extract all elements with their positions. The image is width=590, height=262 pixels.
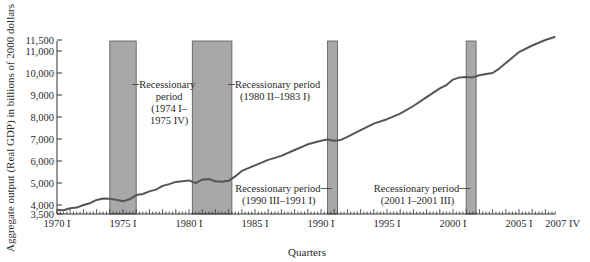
recession-annotation-3: Recessionary period(1990 III–1991 I) <box>235 183 331 207</box>
recession-bar-3 <box>328 41 338 214</box>
gdp-recession-chart: 3,5004,0005,0006,0007,0008,0009,00010,00… <box>0 0 590 262</box>
y-tick-label: 7,000 <box>30 134 54 145</box>
annotation-text: Recessionary <box>139 79 196 90</box>
y-tick-label: 11,000 <box>26 46 55 57</box>
x-tick-label: 1985 I <box>241 218 269 229</box>
x-tick-label: 2005 I <box>505 218 533 229</box>
x-tick-label: 1995 I <box>373 218 401 229</box>
y-tick-label: 9,000 <box>30 90 54 101</box>
y-tick-label: 5,000 <box>30 178 54 189</box>
recession-bar-2 <box>192 41 232 214</box>
annotation-text: (1974 I– <box>151 103 188 115</box>
y-tick-label: 6,000 <box>30 156 54 167</box>
annotation-text: (1980 II–1983 I) <box>240 91 310 103</box>
y-tick-label: 4,000 <box>30 200 54 211</box>
recession-annotation-2: Recessionary period(1980 II–1983 I) <box>228 79 321 103</box>
y-tick-label: 11,500 <box>26 35 55 46</box>
annotation-text: 1975 IV) <box>150 115 189 127</box>
chart-canvas: 3,5004,0005,0006,0007,0008,0009,00010,00… <box>0 0 590 262</box>
y-tick-label: 10,000 <box>25 68 54 79</box>
recession-bar-4 <box>466 41 476 214</box>
annotation-text: (1990 III–1991 I) <box>242 195 316 207</box>
x-tick-label: 1975 I <box>109 218 137 229</box>
annotation-text: Recessionary period <box>235 79 321 90</box>
x-tick-label: 2000 I <box>439 218 467 229</box>
annotation-text: Recessionary period <box>374 183 460 194</box>
y-axis-label: Aggregate output (Real GDP) in billions … <box>4 4 17 252</box>
recession-annotation-1: Recessionaryperiod(1974 I–1975 IV) <box>132 79 196 127</box>
x-tick-label: 1970 I <box>43 218 71 229</box>
x-axis-label: Quarters <box>288 246 326 258</box>
recession-annotation-4: Recessionary period(2001 I–2001 III) <box>374 183 470 207</box>
recession-annotations: Recessionaryperiod(1974 I–1975 IV)Recess… <box>132 79 470 207</box>
y-tick-label: 8,000 <box>30 112 54 123</box>
annotation-text: period <box>156 91 184 102</box>
x-tick-label: 1990 I <box>307 218 335 229</box>
x-tick-label: 1980 I <box>175 218 203 229</box>
annotation-text: Recessionary period <box>235 183 321 194</box>
x-tick-label: 2007 IV <box>545 218 580 229</box>
annotation-text: (2001 I–2001 III) <box>381 195 455 207</box>
recession-bar-1 <box>110 41 136 214</box>
